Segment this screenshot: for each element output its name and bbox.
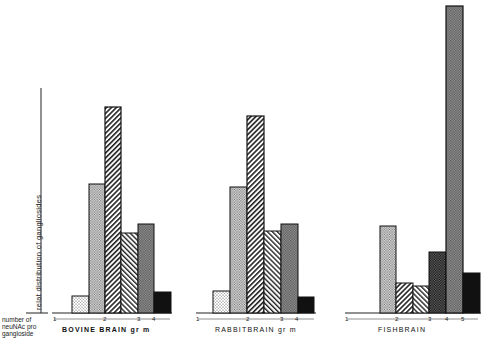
fish-bar-4: [429, 252, 446, 313]
x-axis-label-line-3: gangloside: [2, 330, 36, 337]
ganglioside-distribution-chart: 1 2 3 4 1 2 3 4 1 2 3 4 5: [0, 0, 487, 348]
x-axis-label-line-1: number of: [2, 316, 36, 323]
bovine-bar-3: [105, 107, 121, 313]
bovine-bar-4: [121, 233, 138, 313]
rabbit-bar-5: [281, 224, 298, 313]
fish-brain-panel: 1 2 3 4 5: [345, 6, 481, 322]
bovine-brain-title: BOVINE BRAIN gr m: [62, 326, 150, 333]
bovine-bar-5: [138, 224, 154, 313]
rabbit-brain-title: RABBITBRAIN gr m: [215, 326, 297, 333]
y-axis-label: relat distribution of gangliosides: [34, 195, 43, 310]
x-axis-label: number of neuNAc pro gangloside: [2, 316, 36, 337]
fish-bar-5: [446, 6, 463, 313]
bovine-bar-6: [154, 292, 171, 313]
rabbit-brain-panel: 1 2 3 4: [196, 116, 316, 322]
bovine-bar-1: [72, 296, 89, 313]
fish-brain-title: FISHBRAIN: [378, 326, 426, 333]
rabbit-bar-3: [247, 116, 264, 313]
x-axis-label-line-2: neuNAc pro: [2, 323, 36, 330]
fish-bar-1: [380, 226, 396, 313]
fish-bar-3: [413, 286, 429, 313]
bovine-brain-panel: 1 2 3 4: [52, 107, 172, 322]
rabbit-bar-2: [230, 187, 247, 313]
rabbit-bar-1: [213, 291, 230, 313]
rabbit-bar-4: [264, 231, 281, 313]
fish-bar-2: [396, 283, 413, 313]
rabbit-bar-6: [298, 297, 314, 313]
bovine-bar-2: [89, 184, 105, 313]
fish-bar-6: [463, 273, 480, 313]
